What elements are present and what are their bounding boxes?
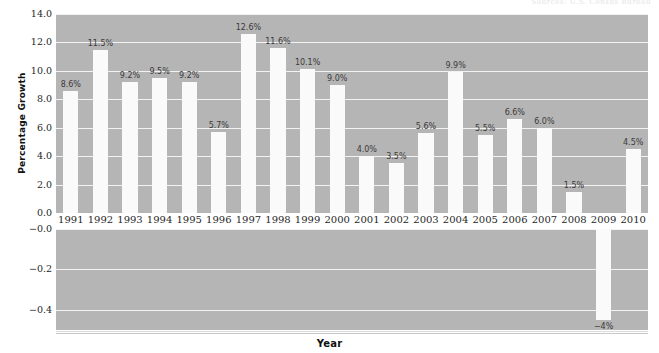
- y-tick-label: 6.0: [37, 122, 52, 133]
- figure-rule-top: [56, 331, 648, 332]
- bar-chart-figure: Sources: U.S. Census Bureau 0.02.04.06.0…: [0, 0, 659, 353]
- y-axis-title: Percentage Growth: [17, 63, 27, 183]
- bar-value-label: 3.5%: [374, 152, 418, 161]
- bar[interactable]: [537, 128, 552, 213]
- bar-value-label: 5.5%: [463, 124, 507, 133]
- bar[interactable]: [389, 163, 404, 213]
- gridline: [56, 229, 648, 230]
- bar[interactable]: [418, 133, 433, 213]
- bar[interactable]: [300, 69, 315, 213]
- bar[interactable]: [122, 82, 137, 213]
- bar[interactable]: [626, 149, 641, 213]
- bar[interactable]: [152, 78, 167, 213]
- bar[interactable]: [507, 119, 522, 213]
- y-tick-label: 8.0: [37, 93, 52, 104]
- bar-value-label: 12.6%: [226, 23, 270, 32]
- bar[interactable]: [63, 91, 78, 213]
- bar-value-label: 10.1%: [286, 58, 330, 67]
- gridline: [56, 14, 648, 15]
- y-tick-label: 12.0: [31, 36, 52, 47]
- bar[interactable]: [93, 50, 108, 213]
- bar[interactable]: [448, 72, 463, 213]
- bar[interactable]: [566, 192, 581, 213]
- x-axis-ticks: 1991199219931994199519961997199819992000…: [56, 213, 648, 229]
- bar-value-label: 5.6%: [404, 122, 448, 131]
- y-tick-label: −0.2: [29, 263, 52, 274]
- gridline: [56, 42, 648, 43]
- y-tick-label: −0.0: [29, 223, 52, 234]
- bar-value-label: 9.0%: [315, 74, 359, 83]
- x-axis-title: Year: [0, 338, 659, 349]
- y-tick-label: 2.0: [37, 179, 52, 190]
- y-tick-label: 14.0: [31, 8, 52, 19]
- gridline: [56, 99, 648, 100]
- bar-value-label: 1.5%: [552, 181, 596, 190]
- bar[interactable]: [211, 132, 226, 213]
- bar-value-label: 5.7%: [197, 121, 241, 130]
- gridline: [56, 310, 648, 311]
- bar-value-label: 8.6%: [49, 80, 93, 89]
- x-tick-label: 2010: [613, 214, 653, 225]
- bar[interactable]: [270, 48, 285, 213]
- y-axis-ticks-lower: −0.0−0.2−0.4: [0, 229, 52, 330]
- bar[interactable]: [359, 156, 374, 213]
- gridline: [56, 269, 648, 270]
- bar-value-label: 9.9%: [434, 61, 478, 70]
- y-tick-label: 0.0: [37, 207, 52, 218]
- gridline: [56, 128, 648, 129]
- bar[interactable]: [596, 229, 611, 320]
- figure-rule-bottom: [56, 333, 648, 334]
- bar-value-label: 11.5%: [78, 39, 122, 48]
- bar-value-label: 4.5%: [611, 138, 655, 147]
- bar[interactable]: [330, 85, 345, 213]
- bar[interactable]: [478, 135, 493, 213]
- y-tick-label: 4.0: [37, 150, 52, 161]
- y-tick-label: 10.0: [31, 65, 52, 76]
- bar-value-label: −4%: [582, 322, 626, 331]
- bar-value-label: 9.2%: [167, 71, 211, 80]
- source-note: Sources: U.S. Census Bureau: [531, 0, 651, 6]
- bar[interactable]: [241, 34, 256, 213]
- bar[interactable]: [182, 82, 197, 213]
- bar-value-label: 6.0%: [522, 117, 566, 126]
- gridline: [56, 156, 648, 157]
- chart-plot-area-lower: [56, 229, 648, 330]
- bar-value-label: 11.6%: [256, 37, 300, 46]
- y-tick-label: −0.4: [29, 304, 52, 315]
